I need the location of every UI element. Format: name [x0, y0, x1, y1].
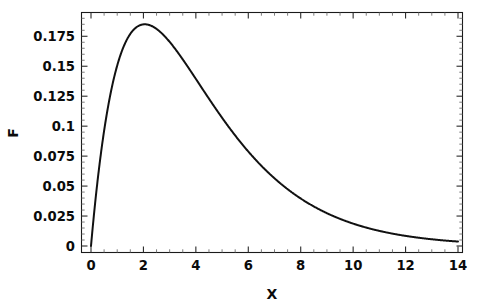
y-tick-label: 0.05	[42, 179, 75, 194]
x-tick-label: 0	[86, 258, 95, 273]
x-tick-label: 2	[139, 258, 148, 273]
x-tick-labels: 02468101214	[86, 258, 467, 273]
plot-canvas: 02468101214 00.0250.050.0750.10.1250.150…	[0, 0, 485, 308]
y-tick-label: 0.1	[52, 119, 75, 134]
y-axis-title: F	[5, 128, 21, 138]
y-tick-label: 0.175	[33, 29, 75, 44]
y-tick-label: 0.075	[33, 149, 75, 164]
x-tick-label: 14	[449, 258, 467, 273]
data-curve-f	[91, 24, 458, 246]
y-tick-label: 0.025	[33, 209, 75, 224]
axis-ticks	[82, 13, 463, 253]
y-tick-label: 0.15	[42, 59, 75, 74]
y-tick-labels: 00.0250.050.0750.10.1250.150.175	[33, 29, 75, 254]
plot-frame	[82, 13, 463, 253]
x-tick-label: 12	[396, 258, 414, 273]
x-tick-label: 6	[244, 258, 253, 273]
y-tick-label: 0.125	[33, 89, 75, 104]
x-axis-title: X	[267, 286, 278, 302]
x-tick-label: 4	[191, 258, 200, 273]
x-tick-label: 8	[296, 258, 305, 273]
x-tick-label: 10	[344, 258, 362, 273]
chart-figure: 02468101214 00.0250.050.0750.10.1250.150…	[0, 0, 485, 308]
y-tick-label: 0	[66, 239, 75, 254]
